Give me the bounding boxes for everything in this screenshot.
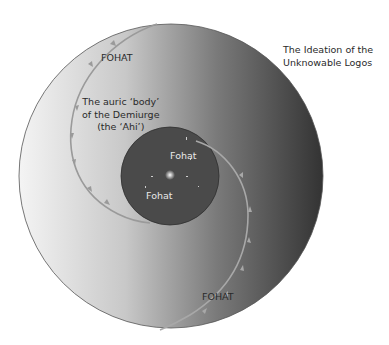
- title-ideation: The Ideation of the Unknowable Logos: [283, 44, 373, 69]
- label-inner-fohat-1: Fohat: [170, 150, 197, 163]
- auric-line-3: (the ‘Ahi’): [82, 121, 159, 134]
- auric-line-1: The auric ‘body’: [82, 96, 159, 109]
- auric-line-2: of the Demiurge: [82, 109, 159, 122]
- label-inner-fohat-2: Fohat: [146, 190, 173, 203]
- label-auric-body: The auric ‘body’ of the Demiurge (the ‘A…: [82, 96, 159, 134]
- label-fohat-bottom: FOHAT: [202, 291, 234, 304]
- title-line-2: Unknowable Logos: [283, 57, 373, 70]
- central-point-icon: [165, 170, 175, 180]
- inner-circle-demiurge: [121, 127, 219, 225]
- label-fohat-top: FOHAT: [101, 52, 133, 65]
- title-line-1: The Ideation of the: [283, 44, 373, 57]
